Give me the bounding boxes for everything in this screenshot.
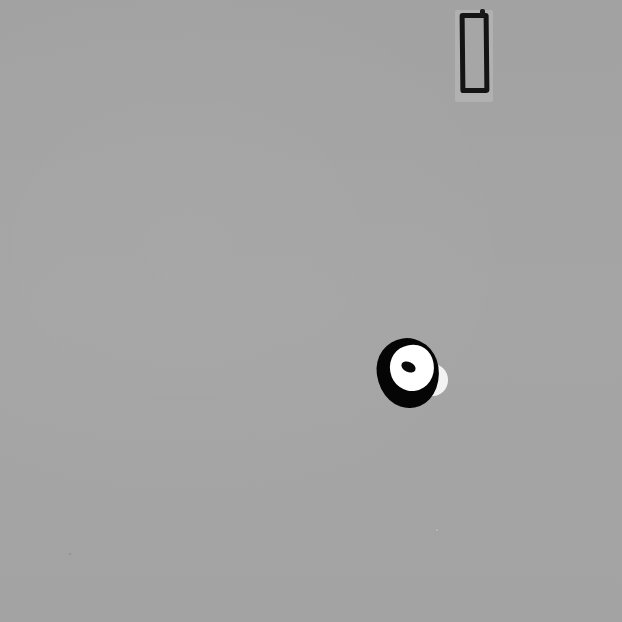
- rectangular-outline-object: [460, 13, 490, 93]
- surface-speck: [436, 529, 438, 531]
- surface-speck: [69, 553, 71, 555]
- photo-scene: [0, 0, 622, 622]
- rectangle-corner-tip: [480, 9, 485, 17]
